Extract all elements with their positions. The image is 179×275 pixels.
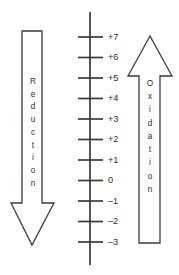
- tick-label--2: –2: [108, 216, 118, 226]
- reduction-letter-5: t: [32, 142, 34, 150]
- tick-label-7: +7: [108, 32, 118, 42]
- oxidation-letter-1: x: [148, 93, 152, 101]
- tick-label-2: +2: [108, 134, 118, 144]
- reduction-letter-3: u: [31, 116, 36, 124]
- oxidation-letter-5: t: [149, 146, 151, 154]
- reduction-letter-7: o: [31, 167, 36, 175]
- oxidation-letter-7: o: [148, 173, 153, 181]
- tick-label-6: +6: [108, 52, 118, 62]
- tick-label-0: 0: [108, 175, 113, 185]
- reduction-letter-0: R: [30, 78, 36, 86]
- oxidation-letter-6: i: [149, 159, 151, 167]
- oxidation-label: Oxidation: [140, 80, 160, 194]
- reduction-letter-6: i: [32, 154, 34, 162]
- tick-labels-group: +7+6+5+4+3+2+10–1–2–3: [108, 32, 118, 247]
- oxidation-number-diagram: +7+6+5+4+3+2+10–1–2–3 Reduction Oxidatio…: [0, 0, 179, 275]
- oxidation-letter-3: d: [148, 120, 153, 128]
- oxidation-letter-4: a: [148, 133, 153, 141]
- reduction-label: Reduction: [23, 78, 43, 188]
- tick-label--3: –3: [108, 237, 118, 247]
- oxidation-letter-8: n: [148, 186, 153, 194]
- reduction-letter-2: d: [31, 103, 36, 111]
- tick-label-3: +3: [108, 114, 118, 124]
- reduction-letter-4: c: [31, 129, 35, 137]
- reduction-letter-1: e: [31, 91, 36, 99]
- reduction-letter-8: n: [31, 180, 36, 188]
- tick-label--1: –1: [108, 196, 118, 206]
- tick-label-5: +5: [108, 73, 118, 83]
- oxidation-letter-2: i: [149, 106, 151, 114]
- tick-label-4: +4: [108, 93, 118, 103]
- tick-label-1: +1: [108, 155, 118, 165]
- oxidation-letter-0: O: [147, 80, 153, 88]
